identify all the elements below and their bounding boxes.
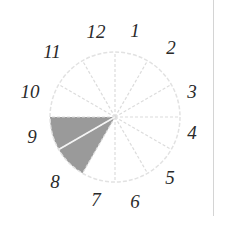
- spoke-line: [59, 85, 115, 118]
- hour-label-11: 11: [43, 41, 61, 62]
- hour-label-7: 7: [91, 189, 102, 210]
- spoke-line: [115, 117, 148, 173]
- hour-label-8: 8: [50, 171, 60, 192]
- spoke-line: [115, 61, 148, 117]
- hour-label-9: 9: [27, 126, 37, 147]
- spoke-line: [83, 61, 116, 117]
- spoke-line: [115, 117, 171, 150]
- hour-label-5: 5: [165, 167, 175, 188]
- hour-label-1: 1: [130, 20, 140, 41]
- shaded-sector: [50, 117, 115, 173]
- hour-labels: 121234567891011: [21, 20, 198, 212]
- hour-label-10: 10: [21, 81, 41, 102]
- hour-label-6: 6: [130, 191, 140, 212]
- hour-label-4: 4: [187, 122, 197, 143]
- hour-label-12: 12: [87, 21, 107, 42]
- vertical-rule: [213, 0, 214, 216]
- spoke-line: [115, 85, 171, 118]
- clock-diagram: 121234567891011: [0, 0, 225, 231]
- hour-label-2: 2: [166, 37, 176, 58]
- hour-label-3: 3: [186, 81, 197, 102]
